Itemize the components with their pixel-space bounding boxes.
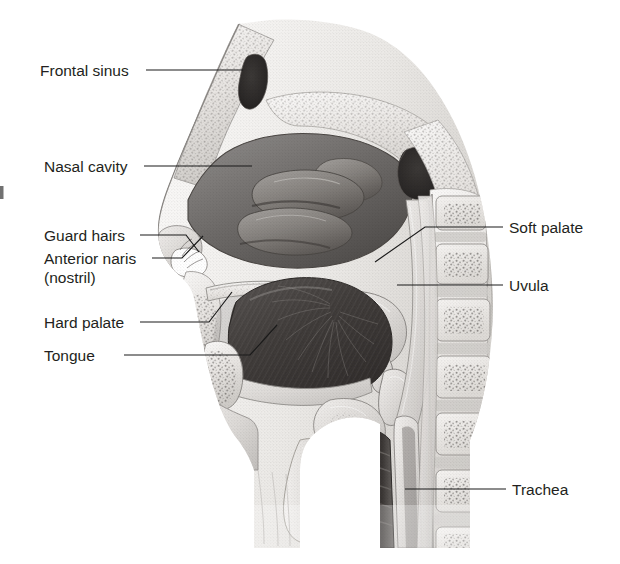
label-frontal-sinus: Frontal sinus [40, 62, 129, 79]
label-trachea: Trachea [512, 481, 569, 498]
neck-tissue-highlight [302, 447, 338, 462]
label-guard-hairs: Guard hairs [44, 227, 125, 244]
label-anterior-naris-nostril: (nostril) [44, 269, 96, 286]
label-uvula: Uvula [509, 277, 549, 294]
anatomy-illustration-svg: Frontal sinus Nasal cavity Guard hairs A… [0, 0, 620, 564]
anatomy-figure: Frontal sinus Nasal cavity Guard hairs A… [0, 0, 620, 564]
label-soft-palate: Soft palate [509, 219, 583, 236]
sagittal-head-illustration [150, 15, 500, 564]
page-margin-fragment [0, 186, 4, 199]
label-hard-palate: Hard palate [44, 314, 124, 331]
label-tongue: Tongue [44, 347, 95, 364]
label-anterior-naris: Anterior naris [44, 250, 136, 267]
trachea-highlight [356, 434, 376, 548]
bottom-fade [150, 505, 500, 564]
label-nasal-cavity: Nasal cavity [44, 158, 128, 175]
